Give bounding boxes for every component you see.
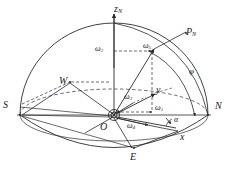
point-north-dot bbox=[207, 114, 209, 116]
label-origin: O bbox=[100, 122, 107, 132]
label-y-axis: y bbox=[156, 85, 160, 95]
alpha-angle-arc bbox=[166, 119, 172, 126]
point-west-dot bbox=[69, 81, 71, 83]
label-omega-1: ω1 bbox=[155, 104, 163, 113]
sphere-vector-diagram bbox=[0, 0, 229, 172]
point-south-dot bbox=[19, 114, 21, 116]
label-omega-5: ω5 bbox=[143, 42, 151, 51]
omega3-vector bbox=[117, 103, 133, 113]
figure-canvas: zN PN ω2 ω5 W S N y x ω3 ω1 ω4 O E φ bbox=[0, 0, 229, 172]
east-to-x-line bbox=[134, 131, 178, 148]
y-axis-vector bbox=[116, 94, 155, 114]
label-phi-angle: φ bbox=[189, 67, 194, 76]
lower-left-diagonal bbox=[85, 117, 113, 133]
label-alpha-angle: α bbox=[174, 116, 178, 124]
label-omega-2: ω2 bbox=[95, 45, 103, 54]
label-north: N bbox=[215, 101, 222, 111]
label-point-pn: PN bbox=[186, 27, 196, 37]
label-west: W bbox=[59, 76, 67, 86]
label-x-axis: x bbox=[180, 132, 184, 142]
point-east-dot bbox=[133, 147, 135, 149]
label-east: E bbox=[130, 152, 136, 162]
label-omega-3: ω3 bbox=[124, 93, 132, 102]
west-to-origin-line bbox=[70, 83, 113, 114]
label-south: S bbox=[3, 100, 8, 110]
label-z-axis: zN bbox=[114, 4, 122, 14]
label-omega-4: ω4 bbox=[127, 122, 135, 131]
south-to-west-line bbox=[22, 83, 70, 115]
